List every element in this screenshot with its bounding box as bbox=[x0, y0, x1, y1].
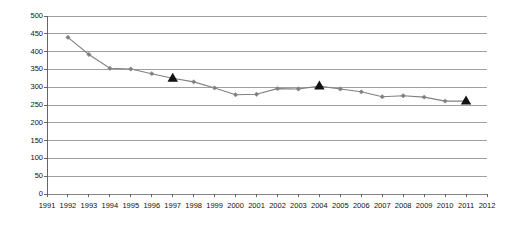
data-point-marker bbox=[233, 92, 237, 96]
y-axis-tick-label: 0 bbox=[19, 190, 43, 198]
x-axis-tick-label: 2010 bbox=[437, 201, 454, 210]
x-axis-tick-label: 1992 bbox=[60, 201, 77, 210]
x-axis-tick-label: 1997 bbox=[164, 201, 181, 210]
data-point-marker bbox=[380, 95, 384, 99]
data-point-marker bbox=[254, 92, 258, 96]
x-axis-tick-label: 2000 bbox=[227, 201, 244, 210]
data-point-marker bbox=[401, 94, 405, 98]
fraud-rate-line-chart: Fraud rate per 100,000 population 050100… bbox=[0, 0, 506, 230]
data-point-marker bbox=[191, 80, 195, 84]
data-point-marker bbox=[212, 86, 216, 90]
y-axis-tick-label: 100 bbox=[19, 154, 43, 162]
plot-area bbox=[0, 0, 506, 230]
data-point-marker bbox=[129, 67, 133, 71]
y-axis-tick-label: 250 bbox=[19, 101, 43, 109]
y-axis-tick-label: 200 bbox=[19, 119, 43, 127]
x-axis-tick-label: 2001 bbox=[248, 201, 265, 210]
y-axis-tick-label: 500 bbox=[19, 12, 43, 20]
y-axis-tick-label: 450 bbox=[19, 30, 43, 38]
x-axis-tick-label: 2009 bbox=[416, 201, 433, 210]
y-axis-tick-label: 50 bbox=[19, 172, 43, 180]
x-axis-tick-label: 1999 bbox=[206, 201, 223, 210]
x-axis-tick-label: 2003 bbox=[290, 201, 307, 210]
x-axis-tick-label: 1993 bbox=[81, 201, 98, 210]
x-axis-tick-label: 1995 bbox=[122, 201, 139, 210]
x-axis-tick-label: 1994 bbox=[102, 201, 119, 210]
x-axis-tick-label: 1996 bbox=[143, 201, 160, 210]
y-axis-tick-label: 400 bbox=[19, 48, 43, 56]
x-axis-tick-label: 1991 bbox=[39, 201, 56, 210]
data-point-marker bbox=[443, 99, 447, 103]
y-axis-tick-label: 150 bbox=[19, 137, 43, 145]
x-axis-tick-label: 2011 bbox=[458, 201, 474, 210]
data-point-marker bbox=[359, 90, 363, 94]
x-axis-tick-label: 2006 bbox=[353, 201, 370, 210]
x-axis-tick-label: 2004 bbox=[311, 201, 328, 210]
y-axis-tick-label: 350 bbox=[19, 65, 43, 73]
x-axis-tick-label: 2002 bbox=[269, 201, 286, 210]
y-axis-tick-label: 300 bbox=[19, 83, 43, 91]
x-axis-tick-label: 2008 bbox=[395, 201, 412, 210]
highlight-triangle-marker bbox=[461, 96, 471, 105]
x-axis-tick-label: 1998 bbox=[185, 201, 202, 210]
highlight-triangle-marker bbox=[314, 81, 324, 90]
gridlines bbox=[47, 16, 487, 194]
x-axis-tick-label: 2005 bbox=[332, 201, 349, 210]
data-point-marker bbox=[422, 95, 426, 99]
data-point-marker bbox=[150, 71, 154, 75]
x-axis-tick-label: 2007 bbox=[374, 201, 391, 210]
y-axis-tick-labels: 050100150200250300350400450500 bbox=[17, 0, 43, 230]
x-axis-tick-label: 2012 bbox=[479, 201, 496, 210]
